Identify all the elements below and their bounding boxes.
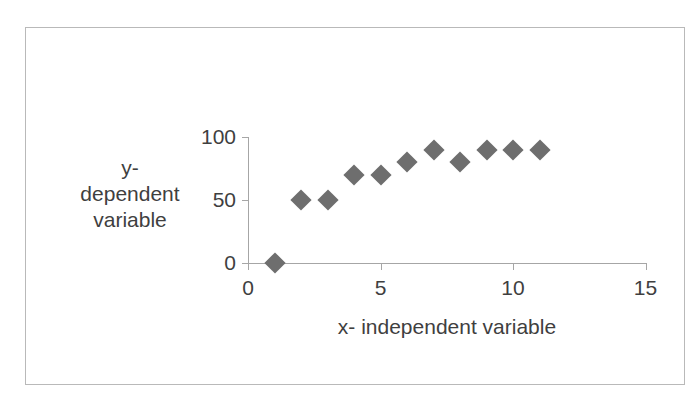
data-point — [396, 152, 417, 173]
y-axis-title-line-3: variable — [58, 207, 202, 233]
data-point — [343, 164, 364, 185]
x-tick-10 — [513, 263, 514, 270]
x-tick-5 — [381, 263, 382, 270]
data-point — [370, 164, 391, 185]
y-tick-0 — [242, 263, 249, 264]
data-point — [317, 189, 338, 210]
y-tick-50 — [242, 200, 249, 201]
y-axis-title: y- dependent variable — [58, 155, 202, 233]
y-axis-title-line-1: y- — [58, 155, 202, 181]
x-tick-15 — [646, 263, 647, 270]
y-tick-label-0: 0 — [176, 252, 236, 273]
data-point — [290, 189, 311, 210]
x-axis-title: x- independent variable — [248, 315, 646, 339]
x-tick-label-15: 15 — [616, 277, 676, 298]
x-tick-label-5: 5 — [351, 277, 411, 298]
data-point — [423, 139, 444, 160]
data-point — [502, 139, 523, 160]
data-point — [529, 139, 550, 160]
x-axis-line — [248, 263, 646, 264]
y-tick-label-100: 100 — [176, 126, 236, 147]
y-axis-title-line-2: dependent — [58, 181, 202, 207]
y-tick-100 — [242, 137, 249, 138]
data-point — [449, 152, 470, 173]
scatter-chart: 051015 050100 x- independent variable y-… — [0, 0, 700, 405]
data-point — [264, 252, 285, 273]
x-tick-label-0: 0 — [218, 277, 278, 298]
data-point — [476, 139, 497, 160]
x-tick-0 — [248, 263, 249, 270]
x-tick-label-10: 10 — [483, 277, 543, 298]
